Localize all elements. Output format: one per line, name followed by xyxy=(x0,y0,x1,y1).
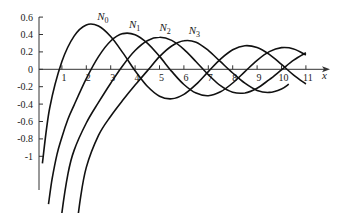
curve-label-n2: N2 xyxy=(159,21,171,36)
curve-n2 xyxy=(60,37,306,213)
x-axis-label: x xyxy=(321,69,327,81)
y-tick-label: -0.6 xyxy=(17,116,33,127)
x-tick-label: 1 xyxy=(61,72,66,83)
y-tick-label: 0.6 xyxy=(21,12,34,23)
curve-n1 xyxy=(49,33,306,204)
x-tick-label: 6 xyxy=(183,72,188,83)
y-tick-label: 0.4 xyxy=(21,29,34,40)
y-tick-label: -1 xyxy=(25,151,33,162)
y-tick-label: -0.2 xyxy=(17,81,33,92)
curve-label-n3: N3 xyxy=(188,24,200,39)
x-tick-label: 10 xyxy=(279,72,289,83)
y-tick-label: -0.8 xyxy=(17,133,33,144)
curve-label-n0: N0 xyxy=(96,10,108,25)
x-tick-label: 11 xyxy=(303,72,313,83)
axes: 0.60.40.20-0.2-0.4-0.6-0.8-1123456789101… xyxy=(17,12,330,190)
y-tick-label: 0 xyxy=(28,64,33,75)
y-tick-label: 0.2 xyxy=(21,46,34,57)
x-tick-label: 5 xyxy=(159,72,164,83)
curve-labels: N0N1N2N3 xyxy=(96,10,200,39)
bessel-neumann-chart: 0.60.40.20-0.2-0.4-0.6-0.8-1123456789101… xyxy=(0,0,345,213)
x-tick-label: 9 xyxy=(257,72,262,83)
y-tick-label: -0.4 xyxy=(17,99,33,110)
curve-label-n1: N1 xyxy=(128,18,140,33)
curves xyxy=(42,24,306,213)
